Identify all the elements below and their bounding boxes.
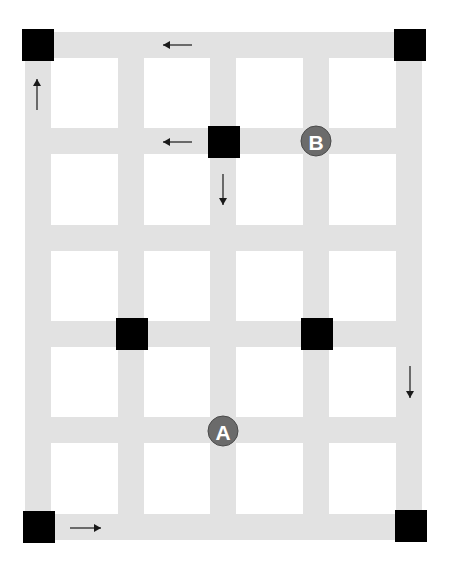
block-top-left bbox=[22, 29, 54, 61]
marker-label: B bbox=[308, 131, 323, 154]
block-bottom-right bbox=[395, 510, 427, 542]
marker-label: A bbox=[215, 421, 230, 444]
vertical-road-4 bbox=[303, 32, 329, 540]
horizontal-road-6 bbox=[25, 514, 422, 540]
road-network bbox=[25, 32, 422, 540]
street-grid-diagram: BA bbox=[0, 0, 449, 566]
block-bottom-left bbox=[23, 511, 55, 543]
horizontal-road-3 bbox=[25, 225, 422, 251]
vertical-road-1 bbox=[25, 32, 51, 540]
block-top-right bbox=[394, 29, 426, 61]
point-a-marker: A bbox=[208, 416, 238, 446]
vertical-road-3 bbox=[210, 32, 236, 540]
horizontal-road-4 bbox=[25, 321, 422, 347]
vertical-road-2 bbox=[118, 32, 144, 540]
point-b-marker: B bbox=[301, 126, 331, 156]
block-mid-right bbox=[301, 318, 333, 350]
block-mid-left bbox=[116, 318, 148, 350]
block-upper-middle bbox=[208, 126, 240, 158]
vertical-road-5 bbox=[396, 32, 422, 540]
horizontal-road-1 bbox=[25, 32, 422, 58]
